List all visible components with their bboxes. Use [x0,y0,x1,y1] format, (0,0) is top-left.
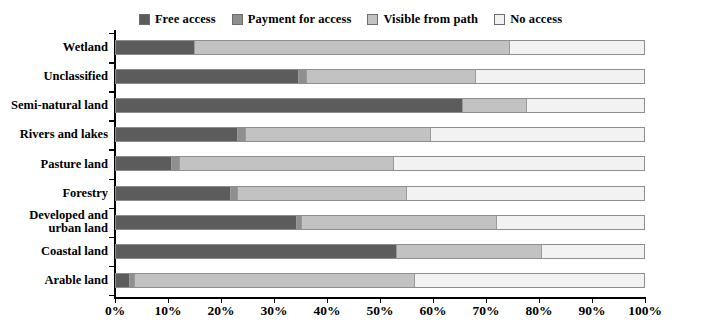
y-axis-label: Wetland [0,41,108,54]
x-axis-tick [274,297,275,303]
x-axis-labels: 0%10%20%30%40%50%60%70%80%90%100% [0,303,701,325]
bar-segment[interactable] [396,245,541,258]
bar-segment[interactable] [509,41,644,54]
bar-segment[interactable] [116,41,194,54]
stacked-bar[interactable] [115,127,645,142]
bar-segment[interactable] [414,274,644,287]
bar-segment[interactable] [116,274,129,287]
bar-segment[interactable] [462,99,526,112]
bar-row [115,179,645,208]
legend-entry[interactable]: No access [494,13,562,26]
bar-row [115,62,645,91]
x-axis-tick-label: 50% [367,303,394,319]
y-axis-tick [109,237,116,238]
x-axis-tick-label: 0% [105,303,125,319]
y-axis-label: Arable land [0,274,108,287]
bar-segment[interactable] [475,70,644,83]
x-axis-tick-label: 100% [628,303,662,319]
x-axis-tick-label: 40% [314,303,341,319]
bar-segment[interactable] [496,216,644,229]
y-axis-label: Forestry [0,187,108,200]
y-axis-tick [109,120,116,121]
bar-segment[interactable] [116,99,462,112]
legend-entry[interactable]: Free access [139,13,216,26]
legend-swatch-icon [139,14,150,25]
legend-entry[interactable]: Visible from path [367,13,478,26]
bar-segment[interactable] [237,187,406,200]
bar-segment[interactable] [116,245,396,258]
bar-row [115,149,645,178]
x-axis-tick [115,297,116,303]
legend-swatch-icon [494,14,505,25]
plot-area [115,33,645,295]
bar-row [115,266,645,295]
bar-segment[interactable] [298,70,306,83]
bar-segment[interactable] [194,41,510,54]
stacked-bar[interactable] [115,40,645,55]
y-axis-labels: WetlandUnclassifiedSemi-natural landRive… [0,33,108,295]
legend-label: Visible from path [383,13,478,26]
bar-row [115,208,645,237]
x-axis-tick [486,297,487,303]
stacked-bar[interactable] [115,69,645,84]
bar-segment[interactable] [116,157,171,170]
bar-segment[interactable] [179,157,393,170]
bar-segment[interactable] [526,99,644,112]
x-axis-tick [168,297,169,303]
bar-segment[interactable] [171,157,179,170]
x-axis-tick [592,297,593,303]
stacked-bar[interactable] [115,156,645,171]
bar-segment[interactable] [393,157,644,170]
bar-segment[interactable] [406,187,644,200]
stacked-bar[interactable] [115,244,645,259]
y-axis-label: Pasture land [0,158,108,171]
bar-segment[interactable] [116,216,296,229]
y-axis-tick [109,266,116,267]
x-axis-tick-label: 80% [526,303,553,319]
y-axis-tick [109,91,116,92]
y-axis-label: Unclassified [0,70,108,83]
bar-segment[interactable] [116,128,237,141]
bar-segment[interactable] [134,274,414,287]
bar-row [115,237,645,266]
x-axis-tick [221,297,222,303]
bar-segment[interactable] [116,187,230,200]
bar-segment[interactable] [116,70,298,83]
stacked-bar[interactable] [115,273,645,288]
stacked-bar-chart: Free accessPayment for accessVisible fro… [0,0,701,331]
y-axis-tick [109,208,116,209]
bar-row [115,33,645,62]
legend-entry[interactable]: Payment for access [232,13,352,26]
bar-segment[interactable] [237,128,245,141]
x-axis-tick-label: 10% [155,303,182,319]
legend-label: No access [510,13,562,26]
bar-segment[interactable] [430,128,644,141]
bar-segment[interactable] [301,216,496,229]
y-axis-tick [109,62,116,63]
bar-segment[interactable] [245,128,430,141]
y-axis-label: Coastal land [0,245,108,258]
y-axis-tick [109,179,116,180]
bar-row [115,120,645,149]
x-axis-tick [327,297,328,303]
x-axis-tick-label: 70% [473,303,500,319]
bar-segment[interactable] [306,70,475,83]
x-axis-tick-label: 20% [208,303,235,319]
x-axis-tick [380,297,381,303]
stacked-bar[interactable] [115,215,645,230]
chart-legend: Free accessPayment for accessVisible fro… [0,8,701,30]
legend-swatch-icon [232,14,243,25]
bar-segment[interactable] [230,187,238,200]
bar-row [115,91,645,120]
x-axis-tick [645,297,646,303]
y-axis-label: Developed and urban land [0,209,108,235]
bar-segment[interactable] [541,245,644,258]
legend-label: Free access [155,13,216,26]
legend-label: Payment for access [248,13,352,26]
y-axis-tick [109,149,116,150]
x-axis-tick-label: 60% [420,303,447,319]
legend-swatch-icon [367,14,378,25]
stacked-bar[interactable] [115,98,645,113]
stacked-bar[interactable] [115,186,645,201]
x-axis-tick [433,297,434,303]
